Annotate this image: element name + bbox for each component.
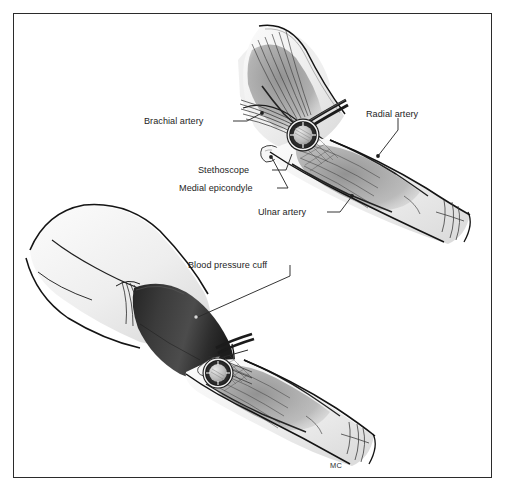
stethoscope-chestpiece-lower	[203, 358, 234, 389]
stethoscope-chestpiece-upper	[287, 119, 320, 152]
label-stethoscope: Stethoscope	[198, 166, 249, 175]
illustration-artwork	[0, 0, 507, 487]
label-ulnar-artery: Ulnar artery	[258, 208, 306, 217]
leader-blood-pressure-cuff	[198, 265, 290, 317]
label-blood-pressure-cuff: Blood pressure cuff	[188, 261, 267, 270]
artist-signature: MC	[330, 461, 342, 470]
label-radial-artery: Radial artery	[366, 110, 418, 119]
lower-arm-view	[26, 205, 375, 466]
leader-radial-artery	[378, 118, 398, 156]
label-medial-epicondyle: Medial epicondyle	[179, 184, 253, 193]
medical-illustration-figure: Brachial artery Radial artery Stethoscop…	[0, 0, 507, 487]
label-brachial-artery: Brachial artery	[144, 117, 203, 126]
